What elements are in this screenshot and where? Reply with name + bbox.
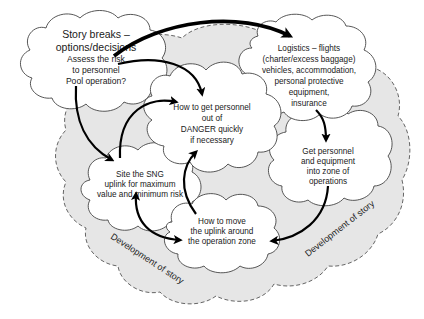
story-breaks-line-1: Story breaks – (62, 28, 130, 40)
site-sng-line-1: Site the SNG (116, 170, 164, 179)
logistics-line-2: (charter/excess baggage) (263, 55, 356, 64)
logistics-line-6: insurance (291, 99, 327, 108)
get-personnel-line-2: and equipment (301, 157, 356, 166)
story-development-diagram: Story breaks – options/decisions Assess … (0, 0, 424, 319)
story-breaks-line-4: to personnel (72, 65, 119, 75)
move-uplink-line-2: the uplink around (191, 227, 254, 236)
site-sng-line-3: value and minimum risk (97, 190, 184, 199)
danger-line-3: DANGER quickly (181, 125, 244, 134)
get-personnel-line-3: into zone of (307, 167, 350, 176)
danger-line-1: How to get personnel (173, 103, 251, 112)
move-uplink-line-1: How to move (198, 217, 246, 226)
danger-line-4: if necessary (190, 136, 235, 145)
site-sng-line-2: uplink for maximum (105, 180, 176, 189)
get-personnel-line-4: operations (309, 177, 347, 186)
logistics-line-1: Logistics – flights (278, 44, 340, 53)
get-personnel-line-1: Get personnel (302, 147, 354, 156)
story-breaks-line-5: Pool operation? (66, 76, 126, 86)
move-uplink-line-3: the operation zone (188, 237, 256, 246)
danger-line-2: out of (202, 114, 223, 123)
logistics-line-5: equipment, (289, 88, 330, 97)
logistics-line-3: vehicles, accommodation, (262, 66, 356, 75)
logistics-line-4: personal protective (274, 77, 344, 86)
